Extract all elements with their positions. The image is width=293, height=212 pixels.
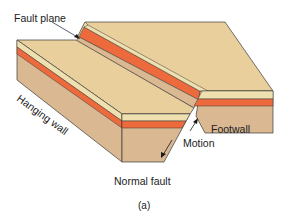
motion-arrowhead-up-icon: [193, 118, 198, 124]
panel-label: (a): [138, 200, 150, 211]
fault-plane-label: Fault plane: [14, 12, 66, 24]
figure-title: Normal fault: [114, 175, 171, 187]
footwall-label: Footwall: [211, 123, 250, 135]
motion-label: Motion: [183, 137, 215, 149]
fault-plane-pointer: [52, 22, 79, 38]
footwall-front-top-layer: [198, 91, 273, 99]
hanging-wall-front-red-layer: [122, 121, 186, 128]
hanging-wall-front-top-layer: [122, 114, 190, 121]
footwall-front-red-layer: [194, 99, 273, 106]
